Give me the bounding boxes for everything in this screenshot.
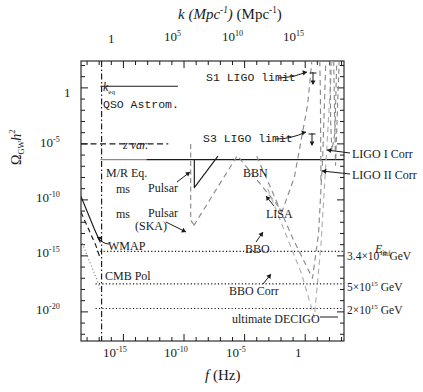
x-tick-2: 10-5 bbox=[226, 346, 246, 359]
x-tick-1: 10-10 bbox=[164, 346, 188, 359]
y-tick-4: 10-20 bbox=[36, 303, 60, 316]
annotation-ultimate-decigo: ultimate DECIGO bbox=[232, 313, 320, 325]
figure-gw-spectrum: k (Mpc-1) (Mpc-1) f (Hz) ΩGWh2 1 105 101… bbox=[0, 0, 423, 392]
top-tick-0: 1 bbox=[108, 32, 115, 45]
y-axis-title: ΩGWh2 bbox=[8, 129, 27, 165]
annotation-bbo: BBO bbox=[245, 243, 270, 255]
label-ligo-ii-corr: LIGO II Corr bbox=[352, 169, 417, 181]
y-tick-1: 10-5 bbox=[40, 136, 60, 149]
top-tick-1: 105 bbox=[164, 30, 181, 43]
label-einf-value-2: 5×1015 GeV bbox=[347, 281, 402, 293]
plot-canvas bbox=[0, 0, 423, 392]
top-axis-title: k (Mpc-1) (Mpc-1) bbox=[178, 6, 282, 22]
annotation-pulsar-ska: Pulsar bbox=[148, 207, 178, 219]
label-einf-value-1: 3.4×1016 GeV bbox=[347, 250, 411, 262]
x-tick-0: 10-15 bbox=[103, 346, 127, 359]
plot-background bbox=[0, 0, 423, 392]
y-tick-2: 10-10 bbox=[36, 191, 60, 204]
top-tick-3: 1015 bbox=[283, 30, 304, 43]
x-tick-3: 1 bbox=[295, 346, 302, 359]
annotation-qso-astrom: QSO Astrom. bbox=[103, 99, 179, 111]
label-ligo-i-corr: LIGO I Corr bbox=[352, 148, 413, 160]
annotation-s3-ligo-limit: S3 LIGO limit bbox=[203, 133, 293, 145]
annotation-lisa: LISA bbox=[266, 208, 293, 220]
annotation-cmb-pol: CMB Pol bbox=[105, 270, 151, 282]
annotation-ska: (SKA) bbox=[135, 220, 167, 232]
annotation-wmap: WMAP bbox=[108, 240, 145, 252]
annotation-ms-2: ms bbox=[116, 208, 130, 220]
y-tick-3: 10-15 bbox=[36, 246, 60, 259]
annotation-mr-eq: M/R Eq. bbox=[106, 167, 147, 179]
x-axis-title: f (Hz) bbox=[205, 368, 240, 383]
annotation-k-eq: keq bbox=[103, 81, 115, 96]
label-einf-value-3: 2×1015 GeV bbox=[347, 304, 402, 316]
annotation-z-var: z var. bbox=[123, 139, 148, 151]
annotation-bbn: BBN bbox=[243, 167, 268, 179]
annotation-s1-ligo-limit: S1 LIGO limit bbox=[206, 72, 296, 84]
top-tick-2: 1010 bbox=[222, 30, 243, 43]
annotation-bbo-corr: BBO Corr bbox=[229, 285, 279, 297]
y-tick-0: 1 bbox=[64, 86, 71, 99]
annotation-ms-1: ms bbox=[116, 183, 130, 195]
annotation-pulsar-1: Pulsar bbox=[148, 182, 178, 194]
